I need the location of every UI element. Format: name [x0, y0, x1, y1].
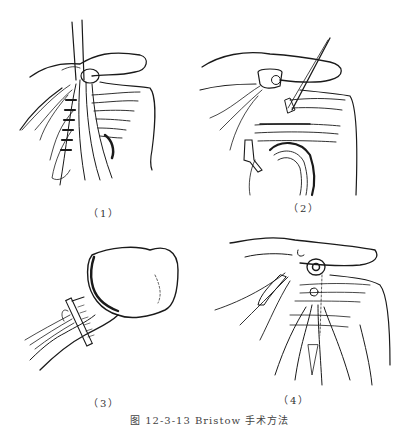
panel-label-4: （4）	[278, 392, 310, 407]
figure-panel-4: （4）	[200, 215, 407, 405]
figure-panel-2: （2）	[200, 0, 407, 215]
humeral-head-illustration	[0, 215, 207, 405]
shoulder-illustration-1	[0, 0, 200, 215]
shoulder-illustration-2	[200, 0, 407, 215]
shoulder-illustration-4	[200, 215, 407, 405]
figure-panel-3: （3）	[0, 215, 207, 405]
panel-label-3: （3）	[88, 395, 120, 410]
figure-panel-1: （1）	[0, 0, 200, 215]
figure-caption: 图 12-3-13 Bristow 手术方法	[130, 412, 289, 427]
panel-label-2: （2）	[288, 200, 320, 215]
